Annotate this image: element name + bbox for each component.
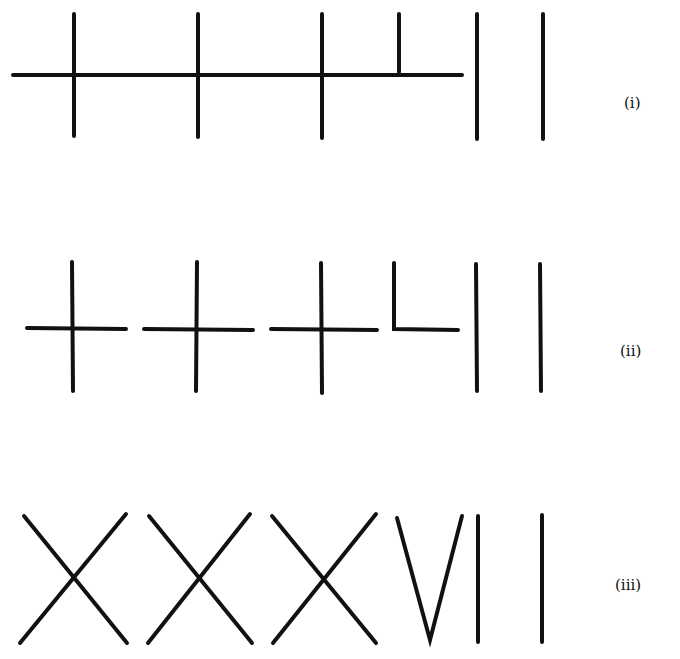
row-ii-strokes	[27, 262, 541, 393]
row-label-i: (i)	[624, 94, 641, 112]
row-label-ii: (ii)	[620, 342, 641, 360]
tally-diagram	[0, 0, 680, 659]
row-label-iii: (iii)	[615, 576, 641, 594]
row-iii-strokes	[20, 514, 542, 643]
row-i-strokes	[13, 14, 543, 139]
